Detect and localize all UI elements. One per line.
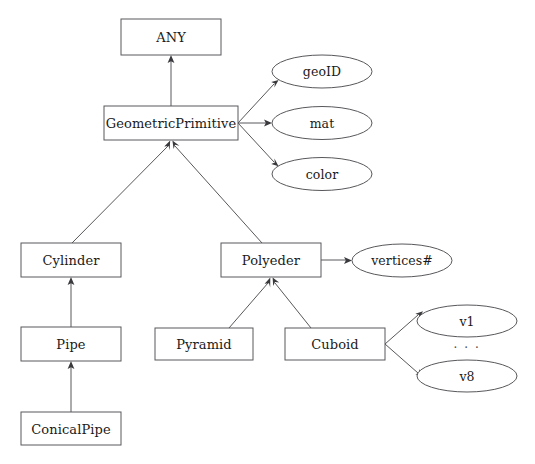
class-node-polyeder[interactable]: Polyeder [221,243,321,277]
class-node-cylinder[interactable]: Cylinder [21,243,121,277]
edge-line [238,123,274,162]
edge-pipe-to-cylinder [68,277,75,327]
attribute-node-v8[interactable]: v8 [417,360,517,392]
class-label: Pyramid [176,337,232,352]
attribute-node-vertices[interactable]: vertices# [352,244,452,277]
class-node-any[interactable]: ANY [121,19,221,55]
class-node-cuboid[interactable]: Cuboid [285,328,385,360]
class-node-pyramid[interactable]: Pyramid [155,328,253,360]
class-label: ANY [155,30,186,45]
attribute-node-mat[interactable]: mat [272,107,372,140]
attribute-label: v1 [458,314,474,329]
attribute-node-v1[interactable]: v1 [417,305,517,337]
class-node-conicalpipe[interactable]: ConicalPipe [21,412,121,445]
edge-line [385,344,418,373]
edge-line [275,283,311,328]
edge-geometricprimitive-to-color [238,123,279,166]
attribute-node-color[interactable]: color [272,158,372,191]
edge-line [385,315,418,344]
edge-pyramid-to-polyeder [229,277,270,328]
class-label: Pipe [56,337,86,352]
class-label: Cuboid [311,337,359,352]
edge-line [229,283,268,328]
edge-geometricprimitive-to-mat [238,120,272,127]
vertices-ellipsis-label: · · · [453,341,480,355]
class-label: Cylinder [42,253,100,268]
attribute-label: vertices# [370,253,433,268]
edge-line [238,84,274,123]
attribute-label: v8 [458,369,474,384]
edge-line [175,146,262,243]
edge-cylinder-to-geometricprimitive [72,140,170,243]
attribute-node-geoid[interactable]: geoID [272,55,372,88]
class-node-pipe[interactable]: Pipe [21,327,121,361]
class-diagram-svg: ANY GeometricPrimitive Cylinder Polyeder… [0,0,535,464]
class-label: ConicalPipe [31,422,111,437]
edge-polyeder-to-geometricprimitive [172,140,262,243]
edge-geometricprimitive-to-geoid [238,80,279,123]
attribute-label: color [306,167,339,182]
edge-line [72,146,168,243]
edge-polyeder-to-vertices [321,257,352,264]
class-label: Polyeder [242,253,301,268]
edge-cuboid-to-v1 [385,311,423,344]
edge-conicalpipe-to-pipe [68,361,75,412]
attribute-label: geoID [303,64,341,79]
attribute-label: mat [310,116,335,131]
class-node-geometricprimitive[interactable]: GeometricPrimitive [104,106,238,140]
edge-cuboid-to-polyeder [273,277,311,328]
class-diagram-canvas: ANY GeometricPrimitive Cylinder Polyeder… [0,0,535,464]
edge-cuboid-to-v8 [385,344,423,377]
class-label: GeometricPrimitive [106,116,237,131]
edge-geometricprimitive-to-any [168,55,175,106]
